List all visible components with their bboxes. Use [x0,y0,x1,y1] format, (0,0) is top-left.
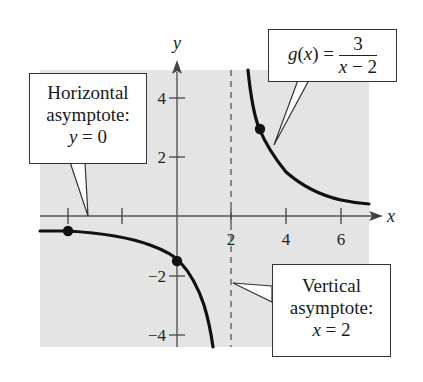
vertical-asymptote-callout: Vertical asymptote: x = 2 [272,264,391,357]
point-0-neg1.5 [172,256,182,266]
fraction: 3x − 2 [339,33,377,78]
y-axis-label: y [171,33,181,53]
x-tick-label-2: 2 [227,230,236,249]
callout-line-1: Horizontal [30,82,146,104]
x-tick-label-4: 4 [282,230,291,249]
callout-line-1: Vertical [273,275,390,297]
x-axis-label: x [386,206,395,226]
y-tick-label-neg4: −4 [148,326,167,345]
horizontal-asymptote-callout: Horizontal asymptote: y = 0 [29,73,147,164]
callout-equation: x = 2 [273,319,390,341]
x-tick-label-6: 6 [337,230,346,249]
point-neg4-neg0.5 [63,226,73,236]
y-tick-label-2: 2 [158,148,167,167]
y-tick-label-4: 4 [158,89,167,108]
y-tick-label-neg2: −2 [148,267,166,286]
callout-line-2: asymptote: [30,104,146,126]
function-label-callout: g(x) = 3x − 2 [268,29,397,82]
callout-line-2: asymptote: [273,297,390,319]
point-3-3 [255,124,265,134]
callout-equation: y = 0 [30,126,146,148]
